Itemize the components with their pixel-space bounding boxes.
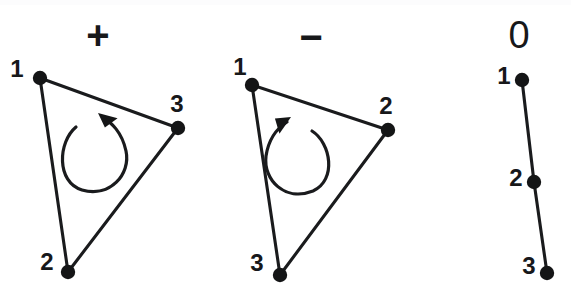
vertex-dot-zero-3 (540, 266, 554, 280)
orientation-arrowhead-negative (271, 110, 295, 133)
figure-canvas: +123−1230123 (0, 0, 571, 294)
vertex-label-zero-3: 3 (522, 252, 535, 279)
vertex-dot-negative-2 (381, 123, 395, 137)
vertex-label-positive-1: 1 (10, 55, 23, 82)
sign-label-negative: − (299, 15, 322, 59)
vertex-dot-negative-3 (273, 268, 287, 282)
vertex-label-positive-3: 3 (170, 90, 183, 117)
vertex-label-negative-3: 3 (250, 249, 263, 276)
sign-label-zero: 0 (508, 14, 529, 56)
edge-negative-3 (280, 130, 388, 275)
orientation-loop-negative (266, 122, 329, 194)
orientation-figure: +123−1230123 (0, 0, 571, 294)
edge-zero-1 (522, 80, 534, 182)
edge-zero-2 (534, 182, 547, 273)
vertex-dot-zero-2 (527, 175, 541, 189)
vertex-label-negative-1: 1 (233, 53, 246, 80)
vertex-label-zero-1: 1 (497, 62, 510, 89)
edge-negative-2 (252, 85, 280, 275)
panel-positive: +123 (10, 13, 185, 280)
panel-zero: 0123 (497, 14, 554, 280)
vertex-dot-zero-1 (515, 73, 529, 87)
vertex-label-positive-2: 2 (40, 248, 53, 275)
vertex-dot-negative-1 (245, 78, 259, 92)
vertex-label-zero-2: 2 (509, 164, 522, 191)
vertex-dot-positive-2 (61, 265, 75, 279)
sign-label-positive: + (86, 13, 109, 57)
panel-negative: −123 (233, 15, 395, 283)
orientation-loop-positive (62, 118, 126, 192)
vertex-label-negative-2: 2 (379, 92, 392, 119)
edge-positive-3 (68, 128, 178, 272)
vertex-dot-positive-3 (171, 121, 185, 135)
edge-negative-1 (252, 85, 388, 130)
vertex-dot-positive-1 (33, 71, 47, 85)
